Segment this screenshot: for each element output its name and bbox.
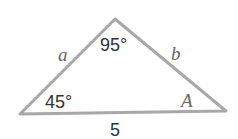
- angle-label-left: 45°: [45, 92, 72, 112]
- side-label-a: a: [58, 44, 68, 65]
- angle-label-top: 95°: [100, 35, 127, 55]
- side-label-bottom: 5: [110, 120, 120, 139]
- triangle-diagram: a b 95° 45° A 5: [0, 0, 238, 139]
- angle-label-A: A: [179, 90, 193, 111]
- side-label-b: b: [171, 43, 181, 64]
